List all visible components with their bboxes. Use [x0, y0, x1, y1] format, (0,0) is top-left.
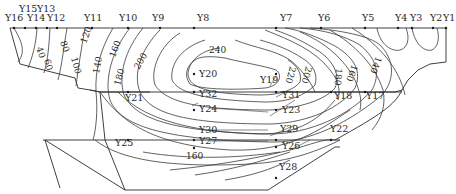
label-y5: Y5 — [361, 12, 374, 23]
label-y25: Y25 — [114, 137, 133, 148]
label-y10: Y10 — [118, 12, 137, 23]
label-y20: Y20 — [198, 68, 217, 79]
point-y6 — [320, 27, 322, 29]
point-y3 — [411, 27, 413, 29]
contour-label-140: 140 — [91, 55, 104, 74]
point-y15 — [24, 27, 26, 29]
point-y10 — [127, 27, 129, 29]
label-y19: Y19 — [259, 74, 278, 85]
contour-label-80: 80 — [58, 39, 71, 53]
contour-diagram: Y16 Y15 Y14 Y13 Y12 Y11 Y10 Y9 Y8 Y7 Y6 … — [0, 0, 456, 194]
point-y23 — [275, 109, 277, 111]
contour-label-180: 180 — [112, 67, 126, 86]
label-y9: Y9 — [151, 12, 164, 23]
label-y22: Y22 — [329, 123, 348, 134]
point-y8 — [193, 27, 195, 29]
label-y4: Y4 — [394, 12, 407, 23]
contour-label-240: 240 — [209, 45, 226, 55]
point-y32 — [193, 91, 195, 93]
label-y17: Y17 — [365, 90, 384, 101]
contour-label-180-right: 180 — [332, 68, 343, 86]
point-y22 — [330, 139, 332, 141]
point-y29 — [275, 139, 277, 141]
label-y26: Y26 — [281, 140, 300, 151]
point-y13 — [46, 27, 48, 29]
label-y28: Y28 — [278, 161, 297, 172]
point-y31 — [275, 91, 277, 93]
point-y28 — [275, 177, 277, 179]
label-y21: Y21 — [124, 92, 143, 103]
label-y7: Y7 — [279, 12, 292, 23]
label-y24: Y24 — [198, 103, 217, 114]
contour-label-200-right: 200 — [300, 65, 314, 84]
contour-label-160-bottom: 160 — [186, 151, 203, 161]
label-y1: Y1 — [442, 12, 455, 23]
point-y27 — [193, 139, 195, 141]
point-y14 — [35, 27, 37, 29]
label-y12: Y12 — [46, 12, 65, 23]
contour-lines — [14, 28, 438, 180]
label-y6: Y6 — [317, 12, 330, 23]
point-y20 — [193, 73, 195, 75]
contour-label-220-right: 220 — [284, 65, 298, 84]
point-y16 — [13, 27, 15, 29]
contour-label-40: 40 — [34, 45, 47, 59]
label-y23: Y23 — [281, 104, 300, 115]
label-y3: Y3 — [409, 12, 422, 23]
label-y31: Y31 — [281, 89, 300, 100]
point-y160 — [193, 147, 195, 149]
point-y9 — [159, 27, 161, 29]
point-y12 — [56, 27, 58, 29]
point-y24 — [193, 109, 195, 111]
point-y26 — [275, 146, 277, 148]
label-y30: Y30 — [198, 124, 217, 135]
label-y11: Y11 — [83, 12, 102, 23]
label-y32: Y32 — [198, 88, 217, 99]
contour-label-100: 100 — [69, 56, 83, 75]
label-y27: Y27 — [198, 135, 217, 146]
contour-label-160: 160 — [107, 39, 122, 59]
point-y18 — [330, 91, 332, 93]
point-y4 — [397, 27, 399, 29]
label-y2: Y2 — [429, 12, 442, 23]
label-y18: Y18 — [333, 90, 352, 101]
point-y1 — [445, 27, 447, 29]
point-y7 — [275, 27, 277, 29]
label-y8: Y8 — [196, 12, 209, 23]
borehole-points — [13, 27, 447, 179]
point-y2 — [432, 27, 434, 29]
point-y5 — [364, 27, 366, 29]
label-y29: Y29 — [279, 123, 298, 134]
contour-label-200: 200 — [132, 51, 149, 71]
top-labels: Y16 Y15 Y14 Y13 Y12 Y11 Y10 Y9 Y8 Y7 Y6 … — [4, 3, 455, 23]
